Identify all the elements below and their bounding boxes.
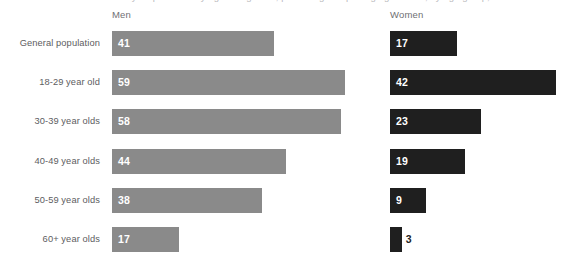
- row-label: General population: [0, 31, 100, 56]
- chart-row: 60+ year olds173: [0, 227, 566, 266]
- row-label: 30-39 year olds: [0, 109, 100, 134]
- bar-women: 9: [390, 188, 426, 213]
- bar-value-men: 58: [118, 109, 130, 134]
- bar-men: 44: [112, 149, 286, 174]
- chart-row: 50-59 year olds389: [0, 188, 566, 227]
- bar-value-men: 38: [118, 188, 130, 213]
- row-label: 18-29 year old: [0, 70, 100, 95]
- bar-men: 17: [112, 227, 179, 252]
- bar-women: 42: [390, 70, 556, 95]
- bar-women: 3: [390, 227, 402, 252]
- bar-men: 58: [112, 109, 341, 134]
- bar-men: 41: [112, 31, 274, 56]
- bar-value-women: 3: [406, 227, 412, 252]
- bar-men: 59: [112, 70, 345, 95]
- column-header-women: Women: [390, 9, 423, 21]
- bar-value-men: 17: [118, 227, 130, 252]
- bar-value-women: 17: [396, 31, 408, 56]
- bar-women: 23: [390, 109, 481, 134]
- chart-row: 40-49 year olds4419: [0, 149, 566, 188]
- chart-row: 30-39 year olds5823: [0, 109, 566, 148]
- bar-value-men: 41: [118, 31, 130, 56]
- bar-value-men: 59: [118, 70, 130, 95]
- bar-value-men: 44: [118, 149, 130, 174]
- column-header-men: Men: [112, 9, 131, 21]
- bar-value-women: 42: [396, 70, 408, 95]
- chart-row: General population4117: [0, 31, 566, 70]
- row-label: 60+ year olds: [0, 227, 100, 252]
- row-label: 50-59 year olds: [0, 188, 100, 213]
- bar-women: 17: [390, 31, 457, 56]
- bar-value-women: 23: [396, 109, 408, 134]
- chart-row: 18-29 year old5942: [0, 70, 566, 109]
- bar-women: 19: [390, 149, 465, 174]
- bar-value-women: 19: [396, 149, 408, 174]
- clipped-caption-text: survey respondents by age and gender, pe…: [108, 0, 566, 3]
- chart-rows: General population411718-29 year old5942…: [0, 31, 566, 266]
- row-label: 40-49 year olds: [0, 149, 100, 174]
- bar-chart: survey respondents by age and gender, pe…: [0, 0, 566, 272]
- bar-men: 38: [112, 188, 262, 213]
- bar-value-women: 9: [396, 188, 402, 213]
